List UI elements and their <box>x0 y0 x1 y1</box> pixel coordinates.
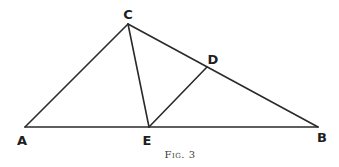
segment-CB <box>128 24 318 127</box>
point-label-a: A <box>17 134 27 147</box>
point-label-b: B <box>317 131 327 144</box>
point-label-e: E <box>143 134 152 147</box>
figure-caption: Fig. 3 <box>164 149 195 160</box>
segment-CE <box>128 24 149 127</box>
triangle-diagram <box>0 0 339 167</box>
point-label-d: D <box>208 53 219 66</box>
point-label-c: C <box>123 8 133 21</box>
segment-ED <box>149 67 207 127</box>
geometry-figure: A B C D E Fig. 3 <box>0 0 339 167</box>
segment-AC <box>25 24 128 127</box>
